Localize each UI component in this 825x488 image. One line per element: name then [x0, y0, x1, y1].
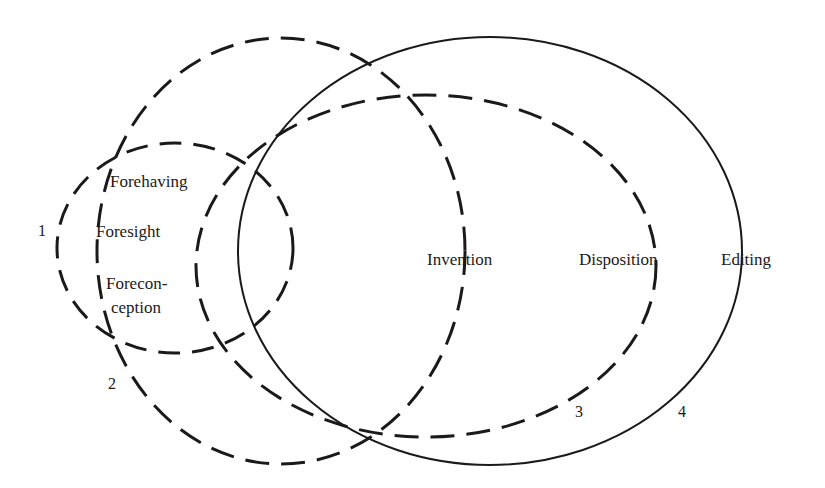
label-foreconception-line2: ception	[111, 298, 161, 318]
label-forehaving: Forehaving	[110, 172, 187, 192]
label-foresight: Foresight	[96, 222, 160, 242]
label-invention: Invention	[427, 250, 492, 270]
number-4: 4	[678, 403, 686, 421]
number-1: 1	[38, 222, 46, 240]
label-disposition: Disposition	[579, 250, 657, 270]
venn-diagram	[0, 0, 825, 488]
label-foreconception-line1: Forecon-	[106, 274, 167, 294]
number-2: 2	[108, 375, 116, 393]
ellipse-2-invention	[97, 38, 465, 464]
label-editing: Editing	[721, 250, 771, 270]
number-3: 3	[575, 403, 583, 421]
